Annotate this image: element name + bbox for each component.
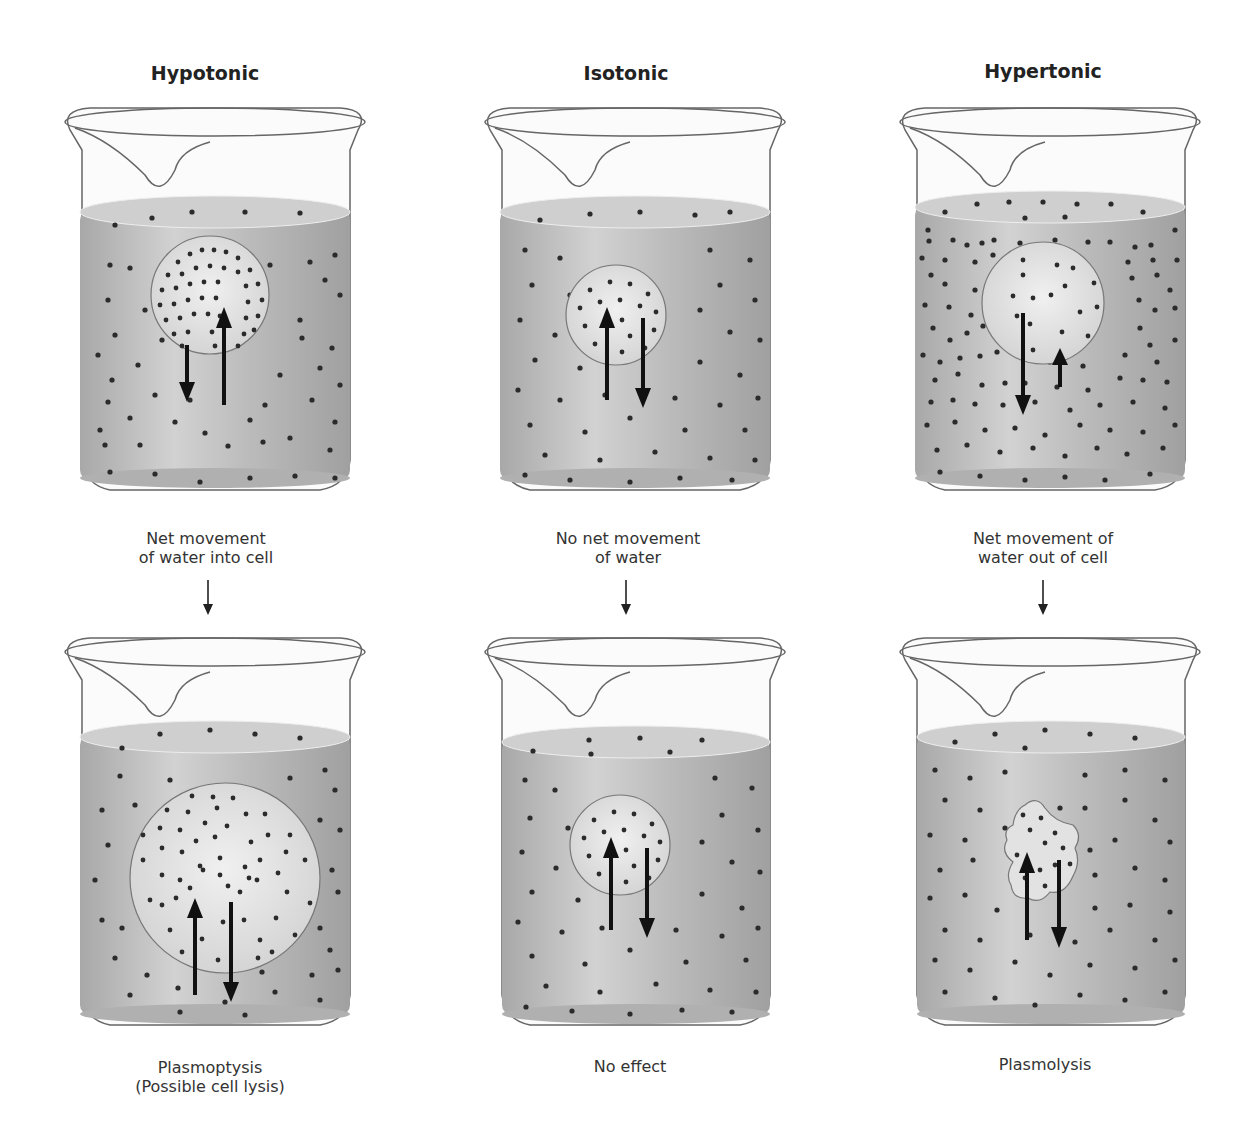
transition-caption-line1: No net movement	[478, 529, 778, 548]
result-caption-line2: (Possible cell lysis)	[60, 1077, 360, 1096]
title-hypotonic: Hypotonic	[55, 62, 355, 84]
transition-caption-hypertonic: Net movement of water out of cell	[893, 529, 1193, 567]
beaker-hypotonic-after	[50, 630, 380, 1035]
transition-caption-line1: Net movement of	[893, 529, 1193, 548]
beaker-hypotonic-before	[50, 100, 380, 500]
result-caption-line1: No effect	[480, 1057, 780, 1076]
down-arrow-icon	[1037, 580, 1049, 616]
title-isotonic: Isotonic	[476, 62, 776, 84]
transition-caption-line2: of water into cell	[56, 548, 356, 567]
beaker-isotonic-before	[470, 100, 800, 500]
result-caption-line1: Plasmolysis	[895, 1055, 1195, 1074]
transition-caption-hypotonic: Net movement of water into cell	[56, 529, 356, 567]
down-arrow-icon	[620, 580, 632, 616]
transition-caption-line2: water out of cell	[893, 548, 1193, 567]
result-caption-line1: Plasmoptysis	[60, 1058, 360, 1077]
result-caption-hypertonic: Plasmolysis	[895, 1055, 1195, 1074]
result-caption-isotonic: No effect	[480, 1057, 780, 1076]
beaker-hypertonic-after	[885, 630, 1215, 1035]
transition-caption-line1: Net movement	[56, 529, 356, 548]
transition-caption-line2: of water	[478, 548, 778, 567]
down-arrow-icon	[202, 580, 214, 616]
beaker-isotonic-after	[470, 630, 800, 1035]
title-hypertonic: Hypertonic	[893, 60, 1193, 82]
beaker-hypertonic-before	[885, 100, 1215, 500]
transition-caption-isotonic: No net movement of water	[478, 529, 778, 567]
result-caption-hypotonic: Plasmoptysis (Possible cell lysis)	[60, 1058, 360, 1096]
